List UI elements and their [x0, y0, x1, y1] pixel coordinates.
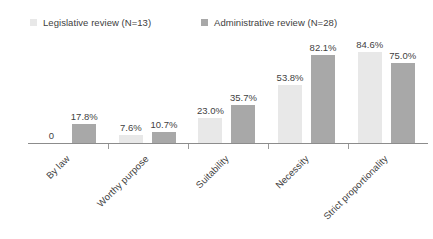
x-axis-tick	[108, 144, 109, 149]
bar-value-label: 75.0%	[389, 50, 416, 61]
legend-item-administrative-review: Administrative review (N=28)	[201, 17, 337, 28]
legend-item-legislative-review: Legislative review (N=13)	[30, 17, 151, 28]
bar-slot: 0	[39, 36, 63, 143]
x-axis-category-labels: By lawWorthy purposeSuitabilityNecessity…	[28, 150, 426, 236]
legend-item-label: Administrative review (N=28)	[214, 17, 337, 28]
bar	[358, 52, 382, 143]
bar	[231, 105, 255, 143]
plot-area: 017.8%7.6%10.7%23.0%35.7%53.8%82.1%84.6%…	[28, 36, 426, 143]
bar-value-label: 10.7%	[150, 119, 177, 130]
bar-slot: 17.8%	[72, 36, 96, 143]
bar-value-label: 82.1%	[310, 42, 337, 53]
bar-value-label: 84.6%	[356, 39, 383, 50]
x-axis-category-cell: Suitability	[187, 150, 267, 236]
x-axis-category-cell: By law	[28, 150, 108, 236]
x-axis-line	[28, 143, 428, 144]
x-axis-category-cell: Necessity	[267, 150, 347, 236]
bar	[119, 135, 143, 143]
bar-slot: 7.6%	[119, 36, 143, 143]
bar-value-label: 23.0%	[197, 105, 224, 116]
bar	[311, 55, 335, 143]
bar	[152, 132, 176, 143]
bar-groups: 017.8%7.6%10.7%23.0%35.7%53.8%82.1%84.6%…	[28, 36, 426, 143]
bar-value-label: 35.7%	[230, 92, 257, 103]
bar-value-label: 17.8%	[71, 111, 98, 122]
x-axis-category-label: Necessity	[273, 153, 311, 191]
bar-group: 7.6%10.7%	[108, 36, 188, 143]
bar-group: 017.8%	[28, 36, 108, 143]
bar-slot: 10.7%	[152, 36, 176, 143]
bar-slot: 35.7%	[231, 36, 255, 143]
bar-value-label: 53.8%	[277, 72, 304, 83]
x-axis-category-label: Suitability	[193, 153, 230, 190]
chart-legend: Legislative review (N=13) Administrative…	[0, 14, 433, 30]
bar-chart-figure: Legislative review (N=13) Administrative…	[0, 0, 433, 239]
bar-slot: 23.0%	[198, 36, 222, 143]
bar-group: 23.0%35.7%	[187, 36, 267, 143]
x-axis-tick	[188, 144, 189, 149]
bar-slot: 84.6%	[358, 36, 382, 143]
bar-group: 84.6%75.0%	[346, 36, 426, 143]
bar	[198, 118, 222, 143]
bar-value-label: 0	[49, 130, 54, 141]
bar-slot: 75.0%	[391, 36, 415, 143]
bar-group: 53.8%82.1%	[267, 36, 347, 143]
x-axis-tick	[348, 144, 349, 149]
x-axis-category-label: By law	[44, 153, 72, 181]
bar	[278, 85, 302, 143]
legend-swatch-square-icon	[30, 19, 37, 26]
legend-swatch-square-icon	[201, 19, 208, 26]
bar	[72, 124, 96, 143]
x-axis-tick	[268, 144, 269, 149]
x-axis-category-cell: Strict proportionality	[346, 150, 426, 236]
legend-item-label: Legislative review (N=13)	[43, 17, 151, 28]
bar-slot: 53.8%	[278, 36, 302, 143]
x-axis-category-cell: Worthy purpose	[108, 150, 188, 236]
bar-slot: 82.1%	[311, 36, 335, 143]
bar	[391, 63, 415, 143]
bar-value-label: 7.6%	[120, 122, 142, 133]
